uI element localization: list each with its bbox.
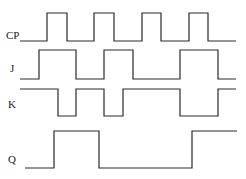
signal-cp: CP — [6, 13, 236, 41]
cp-waveform — [20, 13, 236, 41]
j-label: J — [10, 62, 15, 74]
q-label: Q — [8, 153, 16, 165]
k-label: K — [8, 98, 16, 110]
signal-q: Q — [8, 131, 237, 168]
signal-j: J — [10, 50, 236, 79]
q-waveform — [25, 131, 237, 168]
timing-diagram: CP J K Q — [0, 0, 246, 179]
k-waveform — [20, 89, 236, 116]
j-waveform — [20, 50, 236, 79]
signal-k: K — [8, 89, 236, 116]
cp-label: CP — [6, 29, 19, 41]
